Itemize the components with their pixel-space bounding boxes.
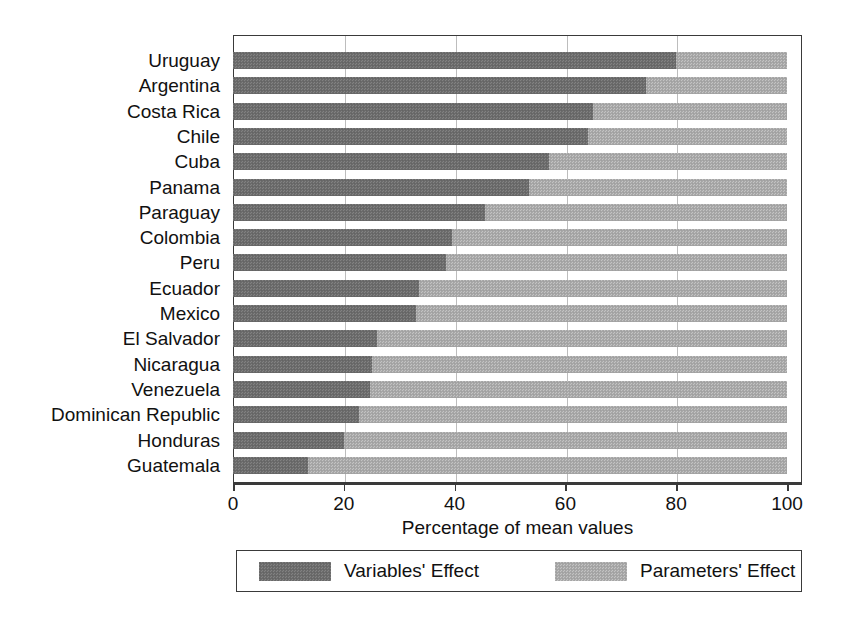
category-label: Honduras xyxy=(138,432,220,449)
category-label: El Salvador xyxy=(123,330,220,347)
table-row xyxy=(233,179,787,196)
bar-segment xyxy=(646,77,787,94)
category-label: Nicaragua xyxy=(133,356,220,373)
category-label: Mexico xyxy=(160,305,220,322)
table-row xyxy=(233,280,787,297)
bar-segment xyxy=(233,229,452,246)
bar-segment xyxy=(370,381,787,398)
table-row xyxy=(233,153,787,170)
bar-segment xyxy=(233,77,646,94)
chart-legend: Variables' Effect Parameters' Effect xyxy=(236,550,802,592)
bar-segment xyxy=(416,305,787,322)
table-row xyxy=(233,52,787,69)
x-tick-label: 60 xyxy=(555,493,576,515)
x-tick-label: 100 xyxy=(771,493,803,515)
bar-segment xyxy=(485,204,787,221)
x-axis-title: Percentage of mean values xyxy=(233,517,802,539)
legend-swatch-variables-effect xyxy=(259,562,331,581)
bar-segment xyxy=(233,179,529,196)
x-tick-mark xyxy=(344,483,346,491)
table-row xyxy=(233,432,787,449)
bar-segment xyxy=(233,103,593,120)
bar-segment xyxy=(529,179,787,196)
x-tick-label: 40 xyxy=(444,493,465,515)
category-axis-labels: UruguayArgentinaCosta RicaChileCubaPanam… xyxy=(0,35,228,483)
chart-container: UruguayArgentinaCosta RicaChileCubaPanam… xyxy=(0,0,847,623)
bar-segment xyxy=(233,406,359,423)
bar-segment xyxy=(233,128,588,145)
table-row xyxy=(233,457,787,474)
category-label: Peru xyxy=(180,254,220,271)
bar-segment xyxy=(588,128,787,145)
table-row xyxy=(233,254,787,271)
bar-segment xyxy=(233,153,549,170)
x-tick-mark xyxy=(676,483,678,491)
category-label: Argentina xyxy=(139,77,220,94)
x-axis-line xyxy=(233,483,802,485)
bar-segment xyxy=(377,330,787,347)
bar-segment xyxy=(446,254,787,271)
x-tick-mark xyxy=(787,483,789,491)
category-label: Colombia xyxy=(140,229,220,246)
bar-segment xyxy=(233,254,446,271)
bar-segment xyxy=(372,356,788,373)
legend-swatch-parameters-effect xyxy=(555,562,627,581)
bar-segment xyxy=(452,229,787,246)
bar-segment xyxy=(359,406,787,423)
category-label: Costa Rica xyxy=(127,103,220,120)
bar-segment xyxy=(233,457,308,474)
bar-segment xyxy=(676,52,787,69)
category-label: Ecuador xyxy=(149,280,220,297)
legend-item-variables-effect: Variables' Effect xyxy=(259,560,479,582)
bar-segment xyxy=(233,432,344,449)
table-row xyxy=(233,381,787,398)
category-label: Uruguay xyxy=(148,52,220,69)
legend-label-variables-effect: Variables' Effect xyxy=(344,560,479,582)
table-row xyxy=(233,406,787,423)
table-row xyxy=(233,103,787,120)
bar-segment xyxy=(233,381,370,398)
bar-segment xyxy=(308,457,787,474)
bar-segment xyxy=(233,356,372,373)
x-tick-mark xyxy=(233,483,235,491)
x-tick-label: 0 xyxy=(228,493,239,515)
table-row xyxy=(233,305,787,322)
legend-item-parameters-effect: Parameters' Effect xyxy=(555,560,795,582)
category-label: Paraguay xyxy=(139,204,220,221)
table-row xyxy=(233,356,787,373)
legend-label-parameters-effect: Parameters' Effect xyxy=(640,560,795,582)
category-label: Chile xyxy=(177,128,220,145)
bar-segment xyxy=(233,204,485,221)
bar-segment xyxy=(233,52,676,69)
table-row xyxy=(233,330,787,347)
bar-segment xyxy=(233,330,377,347)
bar-segment xyxy=(344,432,787,449)
bar-segment xyxy=(549,153,787,170)
category-label: Cuba xyxy=(175,153,220,170)
table-row xyxy=(233,128,787,145)
category-label: Venezuela xyxy=(131,381,220,398)
x-tick-mark xyxy=(565,483,567,491)
bar-segment xyxy=(233,280,419,297)
bar-segment xyxy=(593,103,787,120)
table-row xyxy=(233,77,787,94)
table-row xyxy=(233,229,787,246)
x-tick-label: 20 xyxy=(333,493,354,515)
category-label: Dominican Republic xyxy=(51,406,220,423)
category-label: Guatemala xyxy=(127,457,220,474)
category-label: Panama xyxy=(149,179,220,196)
bar-rows xyxy=(233,35,802,483)
x-tick-mark xyxy=(455,483,457,491)
bar-segment xyxy=(419,280,787,297)
bar-segment xyxy=(233,305,416,322)
x-tick-label: 80 xyxy=(666,493,687,515)
table-row xyxy=(233,204,787,221)
